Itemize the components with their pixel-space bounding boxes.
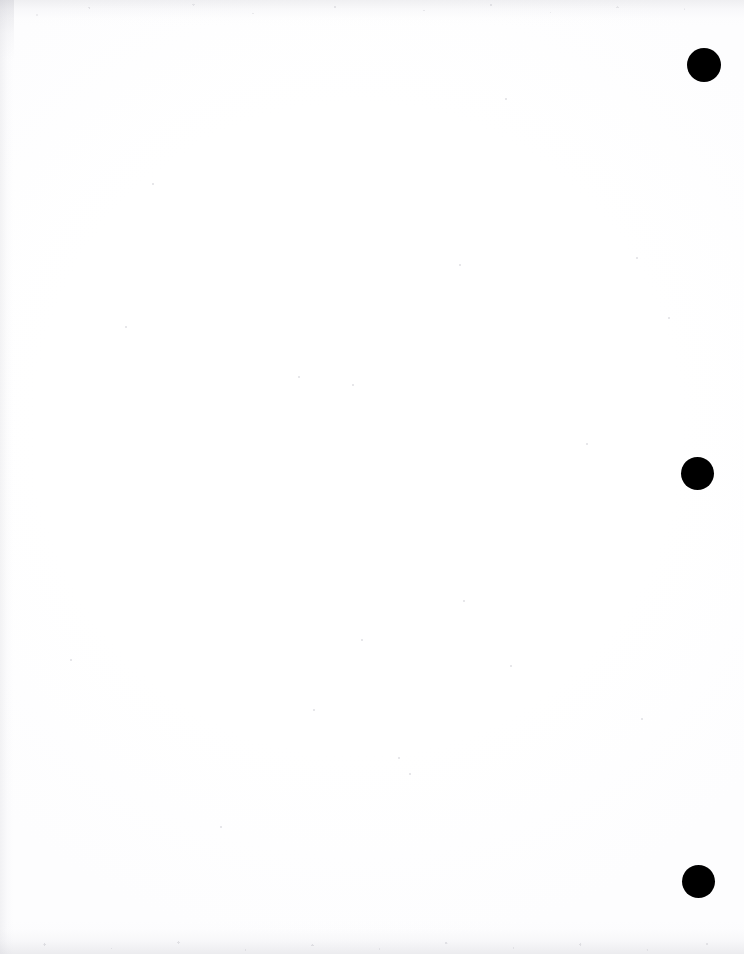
scan-speck-16 xyxy=(668,317,670,319)
scan-artifact-top-band xyxy=(0,0,744,26)
scan-speck-18 xyxy=(398,757,400,759)
binding-hole-mark-1 xyxy=(687,48,721,82)
scan-speck-6 xyxy=(463,600,465,602)
scan-artifact-left-edge xyxy=(0,0,16,954)
scan-artifact-bottom-band xyxy=(0,920,744,954)
scan-speck-9 xyxy=(636,257,638,259)
scan-speck-2 xyxy=(298,376,300,378)
scan-artifact-top-left-corner xyxy=(0,0,14,60)
scan-speck-3 xyxy=(352,384,354,386)
scan-speck-1 xyxy=(152,183,154,185)
scan-speck-15 xyxy=(586,443,588,445)
scan-speck-11 xyxy=(125,326,127,328)
scan-speck-4 xyxy=(361,639,363,641)
scan-speck-12 xyxy=(70,659,72,661)
binding-hole-mark-3 xyxy=(682,865,715,898)
scan-speck-5 xyxy=(459,264,461,266)
scan-speck-7 xyxy=(505,98,507,100)
scan-speck-14 xyxy=(409,773,411,775)
scan-speck-8 xyxy=(510,665,512,667)
binding-hole-mark-2 xyxy=(681,457,714,490)
scan-speck-10 xyxy=(641,718,643,720)
scanned-page xyxy=(0,0,744,954)
scan-speck-13 xyxy=(220,826,222,828)
scan-speck-17 xyxy=(313,709,315,711)
paper-background xyxy=(0,0,744,954)
